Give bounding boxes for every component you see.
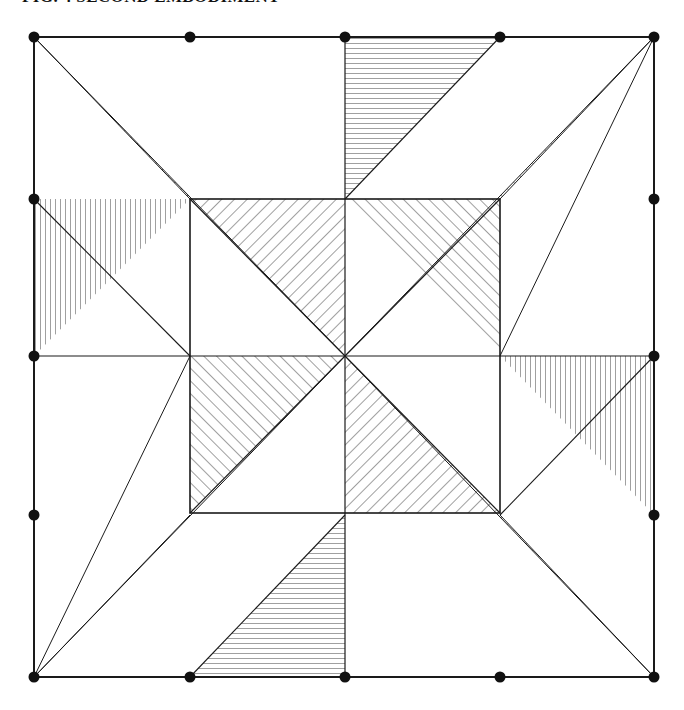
node-bottom-mid: [340, 672, 351, 683]
figure-title-clip: FIG. 4 SECOND EMBODIMENT: [0, 0, 684, 13]
node-top-right-corner: [649, 32, 660, 43]
node-top-mid: [340, 32, 351, 43]
node-bottom-left-corner: [29, 672, 40, 683]
node-left-mid: [29, 351, 40, 362]
node-top-three-quarter: [495, 32, 506, 43]
figure-container: [0, 13, 684, 710]
node-bottom-right-corner: [649, 672, 660, 683]
geometric-pattern-figure: [0, 13, 684, 710]
node-right-three-quarter: [649, 510, 660, 521]
node-right-mid: [649, 351, 660, 362]
node-top-left-corner: [29, 32, 40, 43]
node-bottom-quarter: [185, 672, 196, 683]
page-title: FIG. 4 SECOND EMBODIMENT: [22, 0, 280, 7]
node-right-quarter: [649, 194, 660, 205]
node-bottom-three-quarter: [495, 672, 506, 683]
node-top-quarter: [185, 32, 196, 43]
node-left-quarter: [29, 194, 40, 205]
node-left-three-quarter: [29, 510, 40, 521]
figure-page: FIG. 4 SECOND EMBODIMENT: [0, 0, 684, 710]
